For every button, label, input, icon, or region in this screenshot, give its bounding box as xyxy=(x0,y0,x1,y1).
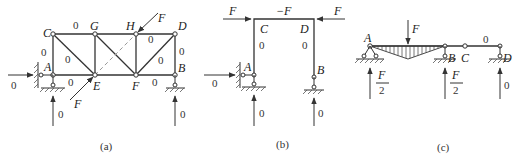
caption-a: (a) xyxy=(100,140,113,153)
svg-text:2: 2 xyxy=(379,84,385,96)
node-label-b: B xyxy=(178,61,186,75)
force-ae: 0 xyxy=(68,76,74,88)
node-label-d: D xyxy=(502,51,512,65)
figure-a-truss: C G H D A E F B F F 0 0 0 0 0 0 0 0 0 0 … xyxy=(8,11,187,153)
load-label-h: F xyxy=(157,11,166,25)
force-ce: 0 xyxy=(65,53,71,65)
node-label-a: A xyxy=(243,60,252,74)
reaction-ax-value: 0 xyxy=(11,79,17,91)
node-label-d: D xyxy=(299,22,309,36)
force-fb: 0 xyxy=(152,76,158,88)
node-label-g: G xyxy=(90,19,99,33)
svg-text:F: F xyxy=(377,68,386,82)
member-ce xyxy=(53,34,95,75)
node-label-c: C xyxy=(461,51,470,65)
svg-text:F: F xyxy=(451,68,460,82)
reaction-d-value: 0 xyxy=(504,79,510,91)
reaction-b-value: F 2 xyxy=(450,68,463,96)
node-label-c: C xyxy=(43,26,52,40)
caption-b: (b) xyxy=(276,138,289,151)
node-label-a: A xyxy=(363,31,372,45)
reaction-by-value: 0 xyxy=(180,108,186,120)
force-hd: 0 xyxy=(148,33,154,45)
reaction-by-value: 0 xyxy=(318,107,324,119)
reaction-ay-value: 0 xyxy=(58,108,64,120)
node-label-a: A xyxy=(43,60,52,74)
node-label-f: F xyxy=(131,79,140,93)
reaction-ax-value: 0 xyxy=(212,77,218,89)
load-label-e: F xyxy=(73,97,82,111)
force-ac: 0 xyxy=(41,46,47,58)
reaction-a-value: F 2 xyxy=(376,68,389,96)
figure-c-beam: F F 2 F 2 0 A B C D 0 (c) xyxy=(355,20,512,154)
load-label-left: F xyxy=(228,4,237,18)
svg-text:2: 2 xyxy=(453,84,459,96)
force-cd: 0 xyxy=(483,33,489,45)
load-label-right: F xyxy=(333,4,342,18)
force-cg: 0 xyxy=(73,19,79,31)
load-label-f: F xyxy=(411,22,420,36)
force-db: 0 xyxy=(302,39,308,51)
node-label-c: C xyxy=(260,22,269,36)
force-ac: 0 xyxy=(259,39,265,51)
hinge-c xyxy=(463,44,467,48)
node-label-e: E xyxy=(92,79,101,93)
node-label-b: B xyxy=(448,51,456,65)
support-b xyxy=(303,75,324,94)
node-label-d: D xyxy=(177,19,187,33)
node-label-h: H xyxy=(125,19,136,33)
node-label-b: B xyxy=(317,63,325,77)
reaction-ay-value: 0 xyxy=(259,107,265,119)
diagram-hatching xyxy=(374,46,442,58)
support-b xyxy=(165,75,185,92)
force-fd: 0 xyxy=(158,54,164,66)
load-arrow-h xyxy=(138,13,158,32)
caption-c: (c) xyxy=(437,141,450,154)
force-db: 0 xyxy=(179,45,185,57)
force-cd: −F xyxy=(276,4,292,18)
figure-b-frame: F F −F C D A B 0 0 0 0 0 (b) xyxy=(204,4,345,151)
member-fd xyxy=(136,34,175,75)
